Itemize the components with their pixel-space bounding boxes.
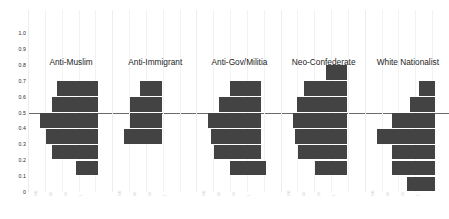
y-axis-tick-label: 0.9 [0, 46, 26, 52]
grid-line [180, 10, 181, 192]
histogram-bar [130, 97, 162, 112]
histogram-bar [52, 97, 98, 112]
histogram-bar [124, 129, 162, 144]
x-axis-tick-label: 100 [287, 191, 291, 196]
group-label: Anti-Immigrant [114, 57, 196, 67]
grid-line [112, 10, 113, 192]
x-axis-tick-label: 50 [133, 192, 137, 196]
y-axis-tick-label: 0.1 [0, 173, 26, 179]
x-axis-tick-label: 100 [202, 191, 206, 196]
y-axis-tick-label: 0.7 [0, 78, 26, 84]
x-axis-tick-label: 10 [401, 192, 405, 196]
histogram-bar [46, 129, 98, 144]
y-axis-tick-label: 0.2 [0, 157, 26, 163]
histogram-bar [52, 145, 98, 160]
chart-container: 1.00.90.80.70.60.50.40.30.20.10 Anti-Mus… [0, 0, 449, 219]
grid-line [163, 10, 164, 192]
histogram-bar [57, 81, 98, 96]
x-axis-tick-label: 10 [148, 192, 152, 196]
histogram-bar [377, 129, 435, 144]
histogram-bar [410, 97, 434, 112]
histogram-bar [407, 177, 435, 192]
histogram-bar [214, 145, 260, 160]
histogram-bar [293, 113, 348, 128]
y-axis-tick-label: 0.6 [0, 94, 26, 100]
x-axis-tick-label: 1 [416, 194, 420, 196]
histogram-bar [295, 129, 347, 144]
y-axis-tick-label: 0.3 [0, 141, 26, 147]
grid-line [382, 10, 383, 192]
histogram-bar [392, 113, 435, 128]
x-axis-tick-label: 50 [302, 192, 306, 196]
group-label: Neo-Confederate [283, 57, 365, 67]
grid-line [196, 10, 197, 192]
x-axis-tick-label: 100 [118, 191, 122, 196]
grid-line [281, 10, 282, 192]
grid-line [213, 10, 214, 192]
histogram-bar [326, 65, 347, 80]
histogram-bar [76, 161, 98, 176]
y-axis-tick-label: 0.8 [0, 62, 26, 68]
grid-line [45, 10, 46, 192]
x-axis-tick-label: 50 [49, 192, 53, 196]
x-axis-tick-label: 10 [317, 192, 321, 196]
grid-line [348, 10, 349, 192]
x-axis-tick-label: 1 [332, 194, 336, 196]
histogram-bar [140, 81, 162, 96]
y-axis-tick-label: 1.0 [0, 30, 26, 36]
histogram-bar [392, 145, 435, 160]
group-label: Anti-Muslim [30, 57, 112, 67]
plot-area: Anti-Muslim10050101Anti-Immigrant1005010… [28, 10, 449, 192]
histogram-bar [297, 97, 347, 112]
y-axis-tick-label: 0.5 [0, 110, 26, 116]
x-axis-tick-label: 100 [371, 191, 375, 196]
group-label: Anti-Gov/Militia [198, 57, 280, 67]
y-axis-tick-label: 0 [0, 189, 26, 195]
x-axis-tick-label: 1 [163, 194, 167, 196]
x-axis-tick-label: 50 [217, 192, 221, 196]
histogram-bar [130, 113, 162, 128]
histogram-bar [211, 129, 260, 144]
histogram-bar [419, 81, 435, 96]
histogram-bar [230, 81, 260, 96]
y-axis: 1.00.90.80.70.60.50.40.30.20.10 [0, 10, 26, 192]
histogram-bar [219, 97, 261, 112]
grid-line [365, 10, 366, 192]
histogram-bar [230, 161, 266, 176]
x-axis-tick-label: 50 [386, 192, 390, 196]
y-axis-tick-label: 0.4 [0, 125, 26, 131]
histogram-bar [208, 113, 260, 128]
grid-line [28, 10, 29, 192]
histogram-bar [298, 145, 347, 160]
x-axis-tick-label: 10 [232, 192, 236, 196]
histogram-bar [392, 161, 435, 176]
histogram-bar [40, 113, 98, 128]
x-axis-tick-label: 1 [79, 194, 83, 196]
x-axis-tick-label: 100 [34, 191, 38, 196]
histogram-bar [315, 161, 347, 176]
histogram-bar [304, 81, 347, 96]
group-label: White Nationalist [367, 57, 449, 67]
x-axis-tick-label: 1 [247, 194, 251, 196]
x-axis-tick-label: 10 [64, 192, 68, 196]
